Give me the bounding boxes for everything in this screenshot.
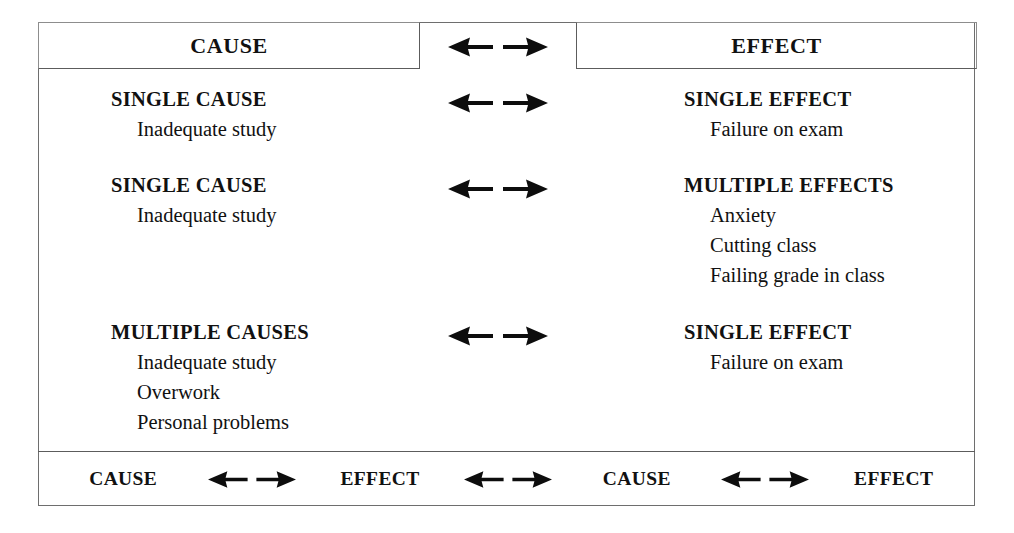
header-label-effect: EFFECT — [731, 33, 821, 59]
list-item: Cutting class — [710, 230, 974, 260]
header-double-arrow — [420, 23, 576, 70]
row-cause-column: SINGLE CAUSE Inadequate study — [39, 84, 420, 144]
cause-item-list: Inadequate study Overwork Personal probl… — [111, 347, 420, 437]
cause-effect-diagram: CAUSE EFFECT SINGLE CAUSE Inadeq — [38, 22, 975, 506]
double-arrow-icon — [208, 468, 296, 491]
list-item: Inadequate study — [137, 114, 420, 144]
footer-label-cause-2: CAUSE — [603, 468, 671, 490]
effect-title: SINGLE EFFECT — [684, 84, 974, 114]
cause-item-list: Inadequate study — [111, 200, 420, 230]
footer-arrow-cell — [187, 468, 315, 491]
footer-label-cause: CAUSE — [89, 468, 157, 490]
diagram-rows: SINGLE CAUSE Inadequate study SINGLE EFF — [39, 70, 974, 451]
relationship-row: MULTIPLE CAUSES Inadequate study Overwor… — [39, 317, 974, 437]
double-arrow-icon — [721, 468, 809, 491]
row-effect-column: MULTIPLE EFFECTS Anxiety Cutting class F… — [576, 170, 974, 290]
footer-label-cell: CAUSE — [573, 468, 701, 490]
list-item: Anxiety — [710, 200, 974, 230]
effect-item-list: Anxiety Cutting class Failing grade in c… — [684, 200, 974, 290]
list-item: Failure on exam — [710, 347, 974, 377]
diagram-header: CAUSE EFFECT — [39, 23, 974, 70]
double-arrow-icon — [448, 323, 548, 349]
effect-item-list: Failure on exam — [684, 114, 974, 144]
header-box-effect: EFFECT — [576, 22, 977, 69]
header-box-cause: CAUSE — [38, 22, 420, 69]
effect-item-list: Failure on exam — [684, 347, 974, 377]
cause-item-list: Inadequate study — [111, 114, 420, 144]
double-arrow-icon — [464, 468, 552, 491]
list-item: Failing grade in class — [710, 260, 974, 290]
list-item: Personal problems — [137, 407, 420, 437]
cause-title: MULTIPLE CAUSES — [111, 317, 420, 347]
row-cause-column: SINGLE CAUSE Inadequate study — [39, 170, 420, 230]
footer-label-cell: EFFECT — [830, 468, 958, 490]
footer-label-effect: EFFECT — [340, 468, 419, 490]
list-item: Failure on exam — [710, 114, 974, 144]
cause-title: SINGLE CAUSE — [111, 84, 420, 114]
effect-title: SINGLE EFFECT — [684, 317, 974, 347]
list-item: Inadequate study — [137, 347, 420, 377]
relationship-row: SINGLE CAUSE Inadequate study MULTIPLE E — [39, 170, 974, 290]
header-label-cause: CAUSE — [190, 33, 268, 59]
relationship-row: SINGLE CAUSE Inadequate study SINGLE EFF — [39, 84, 974, 144]
row-effect-column: SINGLE EFFECT Failure on exam — [576, 317, 974, 377]
double-arrow-icon — [448, 90, 548, 116]
double-arrow-icon — [448, 176, 548, 202]
effect-title: MULTIPLE EFFECTS — [684, 170, 974, 200]
double-arrow-icon — [448, 34, 548, 60]
footer-label-cell: CAUSE — [59, 468, 187, 490]
row-cause-column: MULTIPLE CAUSES Inadequate study Overwor… — [39, 317, 420, 437]
row-arrow-column — [420, 170, 576, 202]
list-item: Overwork — [137, 377, 420, 407]
row-arrow-column — [420, 84, 576, 116]
cause-title: SINGLE CAUSE — [111, 170, 420, 200]
footer-label-cell: EFFECT — [316, 468, 444, 490]
row-arrow-column — [420, 317, 576, 349]
footer-arrow-cell — [701, 468, 829, 491]
row-effect-column: SINGLE EFFECT Failure on exam — [576, 84, 974, 144]
footer-arrow-cell — [444, 468, 572, 491]
list-item: Inadequate study — [137, 200, 420, 230]
diagram-footer: CAUSE EFFECT — [39, 452, 974, 506]
footer-label-effect-2: EFFECT — [854, 468, 933, 490]
